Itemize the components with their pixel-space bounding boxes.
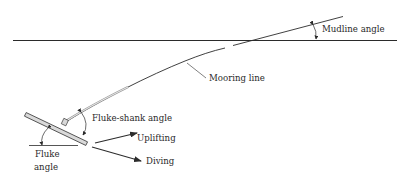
anchor-fluke: [24, 113, 87, 146]
fluke-shank-angle-arc: [81, 112, 86, 135]
mudline-angle-arc: [313, 25, 316, 40]
mooring-line-embedded: [64, 48, 225, 123]
diving-label: Diving: [146, 157, 174, 166]
uplifting-label: Uplifting: [137, 134, 176, 143]
mooring-line-leader: [187, 63, 206, 78]
fluke-angle-arc: [42, 128, 48, 145]
mooring-line-label: Mooring line: [209, 74, 265, 83]
diving-arrow: [92, 147, 141, 161]
mudline-angle-label: Mudline angle: [322, 25, 385, 34]
fluke-angle-label-line1: Fluke: [35, 150, 60, 159]
uplifting-arrow: [95, 133, 137, 143]
fluke-angle-label-line2: angle: [34, 163, 58, 172]
fluke-shank-angle-label: Fluke-shank angle: [92, 114, 172, 123]
